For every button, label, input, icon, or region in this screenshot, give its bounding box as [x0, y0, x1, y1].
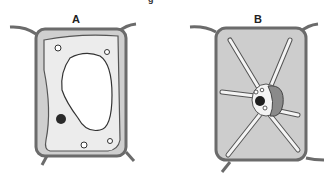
vesicle-b-3 — [263, 106, 267, 110]
nucleus-a — [56, 114, 66, 124]
vesicle-a-2 — [105, 50, 110, 55]
vesicle-a-1 — [55, 45, 61, 51]
vesicle-a-3 — [81, 142, 87, 148]
neighbor-wall-b-br — [306, 158, 324, 160]
vesicle-a-4 — [108, 139, 113, 144]
cell-b — [190, 24, 324, 172]
vesicle-b-1 — [254, 90, 258, 94]
cell-diagram — [0, 0, 328, 184]
vesicle-b-2 — [260, 88, 264, 92]
neighbor-wall-a-tl — [10, 27, 36, 34]
neighbor-wall-b-bl — [222, 162, 230, 172]
neighbor-wall-b-tl — [190, 27, 216, 32]
cell-a — [10, 24, 136, 165]
nucleus-b — [255, 96, 265, 106]
neighbor-wall-a-br — [126, 152, 134, 161]
